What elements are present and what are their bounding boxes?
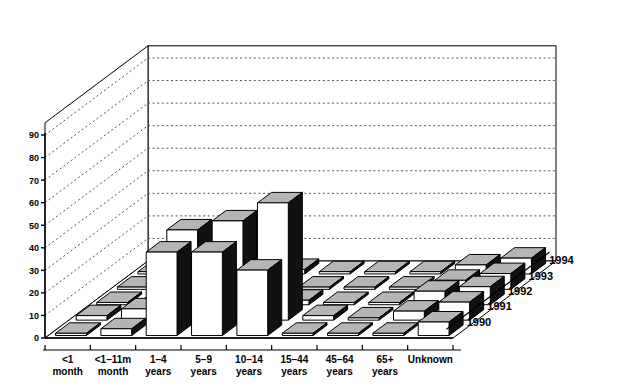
depth-axis-year-label: 1991 [487, 300, 511, 312]
x-axis-category-label: years [236, 366, 263, 377]
y-axis-tick-label: 20 [29, 288, 39, 298]
bar-front-face [97, 302, 128, 304]
bar-front-face [117, 287, 148, 289]
bar-front-face [369, 302, 400, 304]
bar-front-face [418, 322, 449, 336]
bar-front-face [299, 287, 330, 289]
y-axis-tick-label: 70 [29, 176, 39, 186]
bar-front-face [146, 252, 177, 335]
bar-front-face [344, 287, 375, 289]
y-axis-tick-label: 90 [29, 130, 39, 140]
bar-front-face [410, 272, 441, 274]
bar-front-face [373, 333, 404, 335]
y-axis: 0102030405060708090 [29, 130, 45, 343]
bar-front-face [319, 272, 350, 274]
y-axis-tick-label: 0 [34, 333, 39, 343]
bar-front-face [303, 316, 334, 321]
bar-front-face [348, 318, 379, 320]
x-axis-category-label: month [98, 366, 129, 377]
bar-front-face [389, 287, 420, 289]
x-axis-category-label: 45–64 [326, 354, 354, 365]
x-axis-category-label: Unknown [408, 354, 453, 365]
bar-side-face [288, 192, 302, 320]
bar-front-face [192, 252, 223, 335]
bar-front-face [101, 329, 132, 336]
x-axis-category-label: month [52, 366, 83, 377]
y-axis-tick-label: 50 [29, 221, 39, 231]
bar-front-face [365, 272, 396, 274]
bar-side-face [268, 260, 282, 336]
bar-side-face [222, 242, 236, 336]
bar [146, 242, 191, 336]
chart-3d-bar: 0102030405060708090 <1month<1–11mmonth1–… [0, 0, 625, 387]
x-axis-category-label: years [281, 366, 308, 377]
y-axis-tick-label: 30 [29, 266, 39, 276]
x-axis-category-label: 15–44 [280, 354, 308, 365]
bar-side-face [177, 242, 191, 336]
x-axis-category-label: years [191, 366, 218, 377]
x-axis-category-label: 10–14 [235, 354, 263, 365]
bar-front-face [323, 302, 354, 304]
bar-front-face [76, 316, 107, 321]
bar [192, 242, 237, 336]
chart-canvas: 0102030405060708090 <1month<1–11mmonth1–… [0, 0, 625, 387]
y-axis-tick-label: 10 [29, 311, 39, 321]
depth-axis-year-label: 1993 [529, 270, 553, 282]
x-axis-category-label: 1–4 [150, 354, 167, 365]
bar-front-face [56, 333, 87, 335]
x-axis-category-label: years [145, 366, 172, 377]
y-axis-tick-label: 80 [29, 153, 39, 163]
x-axis-category-label: years [372, 366, 399, 377]
bar-front-face [328, 333, 359, 335]
depth-axis-year-label: 1994 [549, 254, 574, 266]
x-axis-category-label: <1 [62, 354, 74, 365]
x-axis-category-label: <1–11m [95, 354, 132, 365]
x-axis-category-label: 5–9 [195, 354, 212, 365]
bar-front-face [393, 311, 424, 320]
depth-axis-year-label: 1990 [467, 316, 491, 328]
x-axis-category-label: years [327, 366, 354, 377]
x-axis-category-label: 65+ [377, 354, 394, 365]
y-axis-tick-label: 40 [29, 243, 39, 253]
bar-front-face [237, 270, 268, 335]
depth-axis-year-label: 1992 [508, 285, 532, 297]
x-axis: <1month<1–11mmonth1–4years5–9years10–14y… [43, 338, 461, 377]
bar [237, 260, 282, 336]
y-axis-tick-label: 60 [29, 198, 39, 208]
bar-front-face [282, 333, 313, 335]
